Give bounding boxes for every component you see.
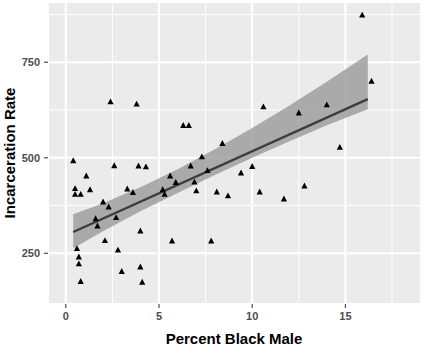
y-axis-title: Incarceration Rate	[1, 88, 18, 219]
y-tick-label: 500	[22, 152, 40, 164]
x-tick-label: 0	[63, 310, 69, 322]
scatter-plot-svg: 051015 250500750 Percent Black Male Inca…	[0, 0, 430, 351]
x-axis-title: Percent Black Male	[166, 330, 303, 347]
x-tick-label: 15	[339, 310, 351, 322]
panel	[49, 3, 420, 303]
y-tick-label: 250	[22, 247, 40, 259]
chart-figure: 051015 250500750 Percent Black Male Inca…	[0, 0, 430, 351]
x-tick-label: 5	[156, 310, 162, 322]
x-tick-label: 10	[246, 310, 258, 322]
y-tick-label: 750	[22, 56, 40, 68]
